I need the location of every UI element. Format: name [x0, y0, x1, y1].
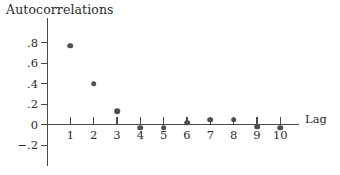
x-axis-line	[47, 124, 299, 125]
data-point	[161, 125, 167, 131]
chart-title: Autocorrelations	[6, 2, 114, 17]
y-axis-tick-label: 0	[31, 118, 38, 132]
x-axis-tick	[116, 117, 117, 125]
data-point	[231, 117, 237, 123]
y-axis-tick-label: .2	[27, 97, 38, 111]
y-axis-tick	[41, 104, 48, 105]
x-axis-tick-label: 1	[67, 128, 74, 142]
y-axis-tick-label: .8	[27, 36, 38, 50]
y-axis-tick-label: .6	[27, 56, 38, 70]
y-axis-tick-label: −.2	[17, 138, 38, 152]
x-axis-tick-label: 3	[113, 128, 120, 142]
y-axis-tick	[41, 124, 48, 125]
data-point	[68, 43, 74, 49]
data-point	[138, 125, 144, 131]
x-axis-tick-label: 6	[183, 128, 190, 142]
x-axis-tick	[140, 117, 141, 125]
y-axis-tick	[41, 83, 48, 84]
y-axis-tick	[41, 42, 48, 43]
data-point	[208, 117, 214, 123]
x-axis-tick	[163, 117, 164, 125]
data-point	[184, 120, 190, 126]
data-point	[91, 81, 97, 87]
x-axis-tick	[70, 117, 71, 125]
y-axis-tick	[41, 145, 48, 146]
x-axis-tick-label: 2	[90, 128, 97, 142]
x-axis-tick-label: 9	[253, 128, 260, 142]
y-axis-tick	[41, 63, 48, 64]
x-axis-tick-label: 7	[207, 128, 214, 142]
x-axis-tick	[93, 117, 94, 125]
y-axis-tick-label: .4	[27, 77, 38, 91]
data-point	[278, 125, 284, 131]
data-point	[254, 124, 260, 130]
x-axis-tick-label: 8	[230, 128, 237, 142]
x-axis-title: Lag	[305, 112, 327, 126]
x-axis-tick	[280, 117, 281, 125]
data-point	[114, 109, 120, 115]
autocorrelation-chart: Autocorrelations .8.6.4.20−.2 1234567891…	[0, 0, 340, 175]
